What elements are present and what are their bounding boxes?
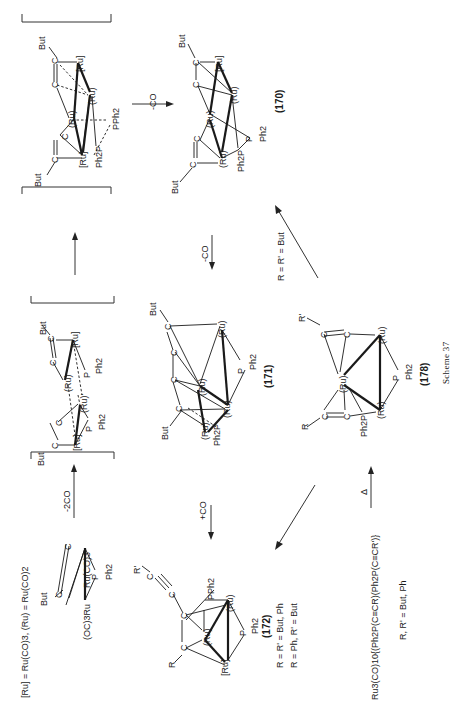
svg-text:C: C	[50, 57, 60, 64]
svg-text:But: But	[148, 302, 158, 316]
svg-text:C: C	[179, 612, 189, 619]
compound-172: R' C C C C R PPh2 (Ru) (Ru) [Ru] P Ph2 (…	[132, 566, 299, 676]
compound-number-172: (172)	[261, 615, 272, 638]
svg-text:(Ru): (Ru)	[225, 594, 235, 612]
svg-text:-CO: -CO	[148, 94, 158, 111]
svg-text:C: C	[342, 413, 352, 420]
precursor: Ru3(CO)10{(Ph2P(C≡CR)(Ph2P(C≡CR')} R, R'…	[370, 535, 408, 700]
svg-text:C: C	[145, 573, 155, 580]
svg-text:-2CO: -2CO	[62, 490, 72, 512]
svg-text:(Ru): (Ru)	[200, 422, 210, 440]
compound-171: But C C C C But (Ru) (Ru) (Ru) (Ru) P Ph…	[148, 302, 274, 446]
svg-text:Ph2: Ph2	[250, 618, 260, 634]
svg-text:(Ru): (Ru)	[218, 150, 228, 168]
compound-170: But C C [Ru] (Ru) (Ru) C C But (Ru) P Ph…	[170, 34, 285, 194]
svg-text:C: C	[63, 543, 73, 550]
svg-text:(Ru): (Ru)	[205, 110, 215, 128]
svg-text:C: C	[174, 405, 184, 412]
svg-text:(Ru): (Ru)	[197, 378, 207, 396]
svg-text:But: But	[36, 452, 46, 466]
scheme-caption: Scheme 37	[441, 341, 451, 384]
svg-text:C: C	[60, 133, 70, 140]
precursor-condition: R, R' = But, Ph	[398, 581, 408, 641]
svg-text:Δ: Δ	[359, 489, 369, 495]
svg-text:R = R' = But: R = R' = But	[276, 232, 286, 281]
svg-text:Ph2: Ph2	[97, 414, 107, 430]
compound-178: R' C C R C C (Ru) (Ru) (Ru) P Ph2 Ph2P (…	[297, 314, 430, 437]
svg-text:PPh2: PPh2	[206, 578, 216, 600]
svg-text:(OC)3Ru: (OC)3Ru	[82, 604, 92, 640]
svg-text:C: C	[191, 59, 201, 66]
svg-text:C: C	[48, 359, 58, 366]
svg-text:Ru(CO)3: Ru(CO)3	[82, 552, 92, 588]
svg-text:C: C	[54, 419, 64, 426]
svg-text:P: P	[82, 372, 92, 378]
legend: [Ru] = Ru(CO)3, (Ru) = Ru(CO)2	[20, 566, 30, 698]
svg-text:C: C	[46, 335, 56, 342]
svg-text:Ph2: Ph2	[404, 364, 414, 380]
svg-text:R': R'	[297, 314, 307, 322]
arrow-int1-to-int2	[72, 232, 78, 275]
compound-intermediate-2: But C C [Ru] (Ru) (Ru) PPh2 But C C [Ru]…	[22, 14, 121, 194]
svg-text:+CO: +CO	[198, 501, 208, 520]
svg-text:P: P	[236, 368, 246, 374]
arrow-int2-to-170: -CO	[132, 94, 174, 111]
svg-text:(Ru)': (Ru)'	[79, 394, 89, 413]
svg-text:P: P	[244, 136, 254, 142]
c172-condition-1: R = R' = But, Ph	[275, 603, 285, 668]
svg-text:Ph2P: Ph2P	[236, 150, 246, 172]
svg-text:C: C	[50, 156, 60, 163]
svg-text:C: C	[319, 331, 329, 338]
svg-text:C: C	[167, 591, 177, 598]
svg-text:Ph2: Ph2	[104, 564, 114, 580]
svg-text:Ph2: Ph2	[248, 354, 258, 370]
svg-text:But: But	[33, 173, 43, 187]
compound-start: But C C Ru(CO)3 (OC)3Ru P Ph2	[39, 543, 114, 640]
svg-text:Ph2P: Ph2P	[212, 424, 222, 446]
arrow-precursor-to-178: Δ	[359, 466, 374, 508]
svg-text:Ph2: Ph2	[258, 126, 268, 142]
svg-text:C: C	[50, 442, 60, 449]
svg-text:C: C	[169, 376, 179, 383]
legend-definition: [Ru] = Ru(CO)3, (Ru) = Ru(CO)2	[20, 566, 30, 698]
svg-text:But: But	[177, 34, 187, 48]
c172-condition-2: R = Ph, R' = But	[289, 603, 299, 668]
svg-text:But: But	[160, 426, 170, 440]
svg-text:R: R	[300, 423, 310, 430]
svg-text:C: C	[342, 331, 352, 338]
svg-text:(Ru): (Ru)	[376, 401, 386, 419]
svg-text:(Ru): (Ru)	[217, 320, 227, 338]
reaction-scheme: [Ru] = Ru(CO)3, (Ru) = Ru(CO)2 But C C R…	[0, 0, 468, 705]
svg-text:C: C	[179, 644, 189, 651]
svg-text:P: P	[391, 375, 401, 381]
arrow-178-to-170: R = R' = But	[275, 205, 318, 281]
svg-text:P: P	[238, 630, 248, 636]
svg-text:(Ru): (Ru)	[67, 110, 77, 128]
svg-text:(Ru): (Ru)	[87, 87, 97, 105]
svg-text:C: C	[320, 413, 330, 420]
svg-text:But: But	[37, 36, 47, 50]
compound-number-171: (171)	[263, 365, 274, 388]
compound-intermediate-1: But C C [Ru] (Ru) P Ph2 But C C (Ru)' [R…	[31, 296, 114, 466]
svg-text:[Ru]: [Ru]	[78, 151, 88, 168]
svg-text:(Ru): (Ru)	[202, 628, 212, 646]
svg-text:C: C	[54, 591, 64, 598]
svg-text:P: P	[84, 426, 94, 432]
svg-text:[Ru]: [Ru]	[220, 659, 230, 676]
svg-text:C: C	[169, 349, 179, 356]
svg-text:C: C	[192, 135, 202, 142]
svg-text:(Ru): (Ru)	[222, 400, 232, 418]
compound-number-178: (178)	[419, 363, 430, 386]
svg-text:C: C	[163, 323, 173, 330]
svg-text:[Ru]: [Ru]	[75, 55, 85, 72]
arrow-170-to-171: -CO	[200, 235, 215, 270]
svg-text:C: C	[50, 81, 60, 88]
svg-text:(Ru): (Ru)	[377, 326, 387, 344]
svg-text:P: P	[90, 574, 100, 580]
svg-text:But: But	[170, 180, 180, 194]
svg-text:[Ru]: [Ru]	[214, 55, 224, 72]
compound-number-170: (170)	[274, 90, 285, 113]
svg-text:C: C	[191, 81, 201, 88]
svg-text:Ph2P: Ph2P	[94, 146, 104, 168]
arrow-start-to-int1: -2CO	[62, 464, 77, 518]
